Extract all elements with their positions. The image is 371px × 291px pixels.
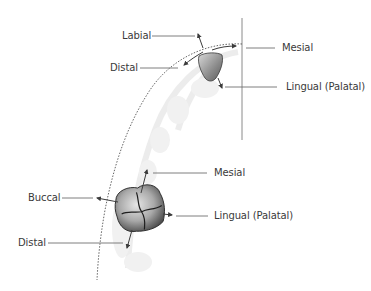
- label-posterior-distal: Distal: [18, 237, 46, 249]
- label-posterior-mesial: Mesial: [214, 167, 245, 179]
- diagram-graphics: [0, 0, 371, 291]
- label-anterior-distal: Distal: [110, 62, 138, 74]
- label-anterior-mesial: Mesial: [282, 42, 313, 54]
- label-buccal: Buccal: [28, 192, 61, 204]
- label-labial: Labial: [122, 30, 151, 42]
- label-posterior-lingual: Lingual (Palatal): [214, 210, 293, 222]
- jaw-outline: [128, 52, 238, 268]
- label-anterior-lingual: Lingual (Palatal): [286, 81, 365, 93]
- tooth-orientation-diagram: Labial Distal Mesial Lingual (Palatal) M…: [0, 0, 371, 291]
